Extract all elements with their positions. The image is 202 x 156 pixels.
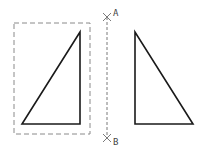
point-b-cross-icon: [103, 134, 111, 142]
diagram-canvas: A B: [0, 0, 202, 156]
source-triangle: [22, 32, 80, 124]
mirror-diagram: A B: [0, 0, 202, 156]
point-a-label: A: [113, 8, 119, 18]
point-b-label: B: [113, 137, 118, 147]
mirrored-triangle: [135, 32, 193, 124]
